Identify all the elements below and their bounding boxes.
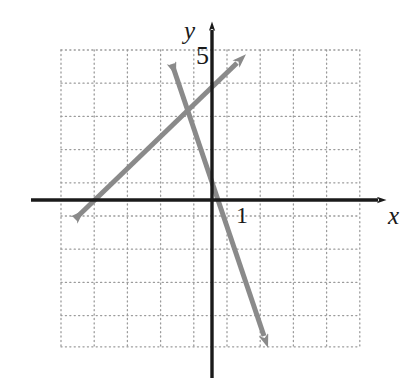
x-axis-label: x xyxy=(388,203,399,228)
y-axis-tick-label-5: 5 xyxy=(196,43,209,69)
y-axis-label: y xyxy=(184,18,195,43)
graph-figure: y x 5 1 xyxy=(0,0,411,384)
x-axis-tick-label-1: 1 xyxy=(236,203,248,227)
